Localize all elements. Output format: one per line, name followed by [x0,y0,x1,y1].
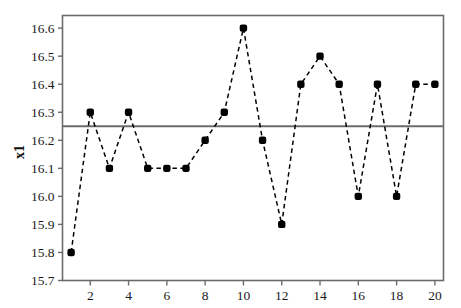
x-tick-label: 6 [163,288,170,303]
data-point-marker [355,193,362,200]
data-point-marker [297,81,304,88]
y-tick-label: 16.2 [31,133,55,148]
data-point-marker [240,24,247,31]
data-point-marker [431,81,438,88]
data-point-marker [125,109,132,116]
x-tick-label: 16 [352,288,366,303]
data-point-marker [163,165,170,172]
x-tick-label: 10 [237,288,251,303]
data-point-marker [144,165,151,172]
data-point-marker [412,81,419,88]
x-tick-label: 18 [390,288,404,303]
line-chart: 15.715.815.916.016.116.216.316.416.516.6… [0,0,461,308]
y-tick-label: 16.3 [31,105,55,120]
y-axis-title: x1 [12,145,27,159]
data-point-marker [316,52,323,59]
x-tick-label: 4 [125,288,132,303]
data-point-marker [67,249,74,256]
x-tick-label: 8 [202,288,209,303]
data-point-marker [87,109,94,116]
y-tick-label: 16.5 [31,49,55,64]
data-point-marker [335,81,342,88]
data-point-marker [201,137,208,144]
y-tick-label: 16.6 [31,21,55,36]
data-point-marker [259,137,266,144]
x-tick-label: 14 [313,288,327,303]
y-tick-label: 15.8 [31,245,55,260]
x-tick-label: 20 [428,288,442,303]
y-tick-label: 16.0 [31,189,55,204]
data-point-marker [182,165,189,172]
data-point-marker [374,81,381,88]
x-tick-label: 2 [87,288,94,303]
y-axis-title-text: x1 [12,145,27,159]
y-tick-label: 16.1 [31,161,55,176]
y-tick-label: 15.9 [31,217,55,232]
x-tick-label: 12 [275,288,289,303]
data-point-marker [221,109,228,116]
chart-background [0,0,461,308]
data-point-marker [106,165,113,172]
data-point-marker [393,193,400,200]
y-tick-label: 16.4 [31,77,55,92]
chart-container: 15.715.815.916.016.116.216.316.416.516.6… [0,0,461,308]
y-tick-label: 15.7 [31,273,55,288]
data-point-marker [278,221,285,228]
